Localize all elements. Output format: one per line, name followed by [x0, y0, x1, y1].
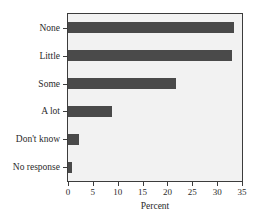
- x-axis-tick-mark: [118, 182, 119, 186]
- plot-area: [68, 14, 242, 181]
- x-axis-tick-label: 0: [66, 187, 71, 197]
- plot-frame: [67, 13, 243, 182]
- x-axis-tick-label: 10: [113, 187, 122, 197]
- bar: [68, 134, 79, 145]
- x-axis-tick-mark: [192, 182, 193, 186]
- y-axis-tick-label: Little: [39, 51, 60, 61]
- x-axis: 05101520253035: [67, 182, 243, 202]
- bar: [68, 78, 176, 89]
- x-axis-tick-mark: [143, 182, 144, 186]
- x-axis-tick-mark: [242, 182, 243, 186]
- x-axis-tick-label: 15: [138, 187, 147, 197]
- y-axis-tick-label: A lot: [41, 106, 60, 116]
- x-axis-tick-mark: [167, 182, 168, 186]
- bar: [68, 22, 234, 33]
- x-axis-tick-label: 5: [91, 187, 96, 197]
- y-axis-tick-label: None: [39, 23, 60, 33]
- x-axis-tick-label: 35: [238, 187, 247, 197]
- bar: [68, 106, 112, 117]
- bar: [68, 50, 232, 61]
- chart-figure: NoneLittleSomeA lotDon't knowNo response…: [0, 0, 258, 222]
- x-axis-tick-mark: [93, 182, 94, 186]
- x-axis-tick-label: 20: [163, 187, 172, 197]
- x-axis-title: Percent: [67, 201, 243, 211]
- y-axis-tick-label: Some: [38, 79, 60, 89]
- x-axis-tick-mark: [217, 182, 218, 186]
- x-axis-tick-mark: [68, 182, 69, 186]
- x-axis-tick-label: 30: [213, 187, 222, 197]
- y-axis-labels: NoneLittleSomeA lotDon't knowNo response: [0, 13, 67, 182]
- y-axis-tick-label: Don't know: [16, 134, 60, 144]
- bar: [68, 162, 72, 173]
- chart-title-strip: [0, 0, 258, 7]
- y-axis-tick-label: No response: [13, 162, 60, 172]
- x-axis-tick-label: 25: [188, 187, 197, 197]
